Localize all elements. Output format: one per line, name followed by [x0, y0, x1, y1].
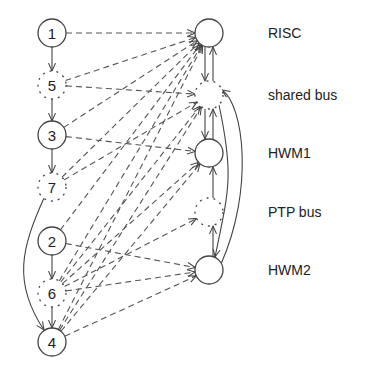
task-node-label: 1 [48, 25, 56, 42]
task-node-label: 3 [48, 127, 56, 144]
task-node-label: 4 [48, 334, 56, 351]
mapping-edge-4-to-hwm2 [65, 276, 197, 336]
precedence-edge-7-to-4 [24, 198, 44, 330]
task-node-7: 7 [38, 173, 66, 201]
mapping-edge-6-to-hwm1 [62, 162, 198, 283]
task-node-5: 5 [38, 71, 66, 99]
mapping-edge-6-to-hwm2 [66, 272, 195, 291]
mapping-edge-7-to-risc [62, 43, 199, 177]
resource-node-risc [195, 19, 223, 47]
task-node-4: 4 [38, 328, 66, 356]
resource-node-ptp-bus [195, 198, 223, 226]
resource-node-hwm2 [195, 256, 223, 284]
resource-label-hwm1: HWM1 [268, 145, 311, 161]
resource-labels: RISCshared busHWM1PTP busHWM2 [268, 25, 337, 278]
mapping-edge-5-to-shared_bus [66, 86, 195, 94]
mapping-edge-5-to-risc [65, 37, 195, 80]
task-node-label: 7 [48, 179, 56, 196]
resource-label-ptp-bus: PTP bus [268, 204, 321, 220]
task-node-6: 6 [38, 279, 66, 307]
resource-node-hwm1 [195, 139, 223, 167]
resource-label-hwm2: HWM2 [268, 262, 311, 278]
task-node-label: 5 [48, 77, 56, 94]
task-node-2: 2 [38, 227, 66, 255]
resource-edge-shared_bus-to-hwm2 [215, 105, 228, 257]
mapping-edge-6-to-ptp_bus [64, 218, 196, 286]
mapping-edge-2-to-risc [60, 44, 200, 230]
resource-label-risc: RISC [268, 25, 301, 41]
mapping-diagram: 1537264 RISCshared busHWM1PTP busHWM2 [0, 0, 379, 381]
mapping-edge-3-to-risc [64, 41, 198, 128]
task-node-label: 6 [48, 285, 56, 302]
mapping-edge-6-to-risc [59, 45, 202, 281]
resource-label-shared-bus: shared bus [268, 87, 337, 103]
mapping-edge-4-to-risc [58, 45, 202, 329]
task-node-1: 1 [38, 19, 66, 47]
mapping-edge-4-to-shared_bus [60, 107, 202, 330]
resource-node-shared-bus [195, 81, 223, 109]
resource-edge-hwm2-to-shared_bus [221, 90, 242, 264]
task-node-label: 2 [48, 233, 56, 250]
mapping-edge-3-to-hwm1 [66, 137, 195, 152]
task-node-3: 3 [38, 121, 66, 149]
